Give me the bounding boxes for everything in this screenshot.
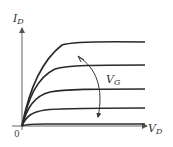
curve-1 (22, 42, 145, 126)
vg-label: VG (106, 73, 121, 87)
origin-label: 0 (14, 129, 20, 139)
id-vd-diagram: ID VD 0 VG (0, 0, 173, 147)
x-axis-label: VD (148, 122, 163, 136)
y-axis-label: ID (12, 12, 24, 26)
vg-arrow-head-top (78, 56, 84, 62)
